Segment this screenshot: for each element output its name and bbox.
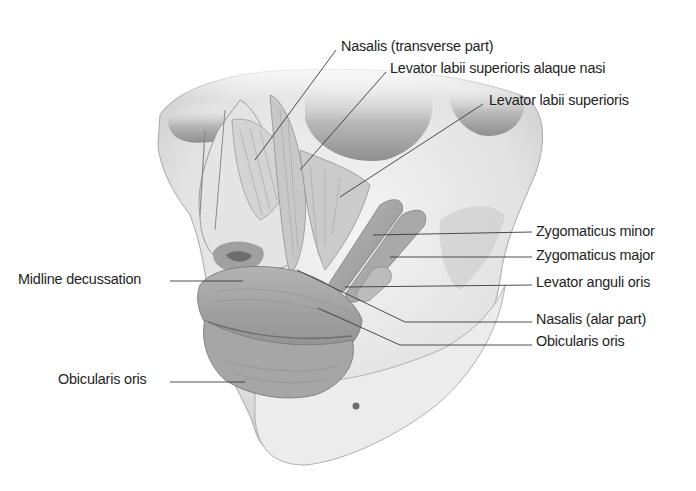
label-zygomaticus-minor: Zygomaticus minor: [536, 222, 655, 240]
label-midline-decussation: Midline decussation: [18, 270, 141, 288]
label-obicularis-oris-right: Obicularis oris: [536, 332, 625, 350]
label-levator-anguli-oris: Levator anguli oris: [536, 273, 650, 291]
label-obicularis-oris-left: Obicularis oris: [58, 370, 147, 388]
label-zygomaticus-major: Zygomaticus major: [536, 246, 655, 264]
label-nasalis-alar: Nasalis (alar part): [536, 310, 646, 328]
label-levator-labii-superioris-alaque-nasi: Levator labii superioris alaque nasi: [390, 59, 605, 77]
label-nasalis-transverse: Nasalis (transverse part): [341, 37, 493, 55]
label-levator-labii-superioris: Levator labii superioris: [489, 91, 629, 109]
